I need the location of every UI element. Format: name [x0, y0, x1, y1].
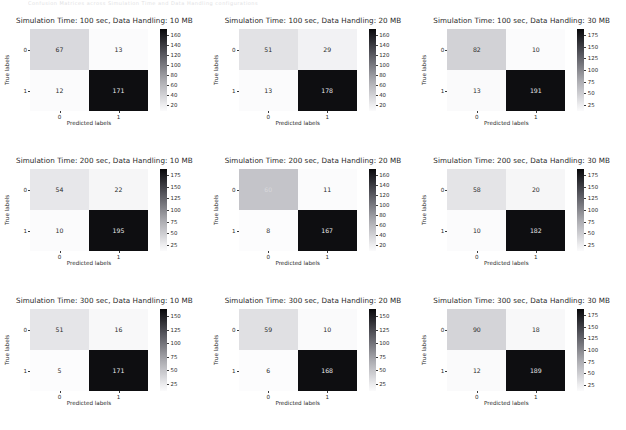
colorbar-tick: 140	[376, 42, 390, 48]
y-tick-label: 1	[441, 368, 445, 374]
matrix-cell: 59	[239, 309, 298, 350]
matrix-cell: 51	[30, 309, 89, 350]
matrix-cell-value: 6	[266, 367, 270, 374]
subplot-panel: Simulation Time: 300 sec, Data Handling:…	[0, 290, 209, 430]
colorbar-tick: 100	[167, 62, 181, 68]
colorbar-tick: 125	[584, 55, 598, 61]
subplot-panel: Simulation Time: 200 sec, Data Handling:…	[209, 150, 418, 290]
matrix-cell-value: 171	[113, 87, 125, 94]
colorbar-tick: 160	[167, 32, 181, 38]
colorbar: 16014012010080604020	[369, 29, 376, 111]
x-axis-label: Predicted labels	[30, 260, 148, 266]
colorbar-tick: 50	[584, 370, 594, 376]
matrix-cell-value: 182	[530, 227, 542, 234]
colorbar: 150125100755025	[369, 309, 376, 391]
colorbar-tick: 40	[167, 92, 177, 98]
subplot-panel: Simulation Time: 300 sec, Data Handling:…	[209, 290, 418, 430]
x-tick-mark	[119, 251, 120, 253]
y-axis-label-text: True labels	[421, 55, 427, 85]
matrix-cell-value: 29	[323, 46, 331, 53]
colorbar-tick: 100	[376, 202, 390, 208]
y-tick-mark	[445, 50, 447, 51]
heatmap-axes: 6713121710101	[30, 29, 148, 111]
y-tick-mark	[28, 231, 30, 232]
matrix-cell: 195	[89, 210, 148, 251]
matrix-cell: 5	[30, 350, 89, 391]
heatmap-axes: 5820101820101	[447, 169, 565, 251]
colorbar: 175150125100755025	[577, 169, 584, 251]
colorbar-tick: 40	[376, 232, 386, 238]
subplot-panel: Simulation Time: 100 sec, Data Handling:…	[0, 10, 209, 150]
matrix-cell-value: 5	[58, 367, 62, 374]
subplot-panel: Simulation Time: 300 sec, Data Handling:…	[417, 290, 626, 430]
heatmap-axes: 8210131910101	[447, 29, 565, 111]
colorbar-tick: 50	[584, 230, 594, 236]
y-tick-mark	[28, 190, 30, 191]
matrix-cell: 12	[447, 350, 506, 391]
colorbar-tick: 60	[376, 222, 386, 228]
colorbar-tick: 20	[376, 242, 386, 248]
y-tick-label: 0	[23, 47, 27, 53]
matrix-cell: 51	[239, 29, 298, 70]
matrix-cell-value: 167	[321, 227, 333, 234]
y-axis-label: True labels	[2, 169, 12, 251]
colorbar-tick: 160	[376, 32, 390, 38]
x-tick-mark	[477, 111, 478, 113]
colorbar-tick: 75	[167, 219, 177, 225]
y-tick-mark	[237, 91, 239, 92]
matrix-cell: 171	[89, 350, 148, 391]
matrix-cell: 13	[89, 29, 148, 70]
subplot-title: Simulation Time: 200 sec, Data Handling:…	[209, 156, 418, 165]
colorbar-tick-labels: 175150125100755025	[584, 309, 614, 391]
subplot-title: Simulation Time: 200 sec, Data Handling:…	[0, 156, 209, 165]
x-tick-mark	[477, 251, 478, 253]
y-axis-label: True labels	[419, 309, 429, 391]
colorbar-gradient	[369, 29, 376, 111]
matrix-cell: 29	[298, 29, 357, 70]
x-tick-mark	[60, 251, 61, 253]
colorbar-tick: 100	[584, 347, 598, 353]
subplot-grid: Simulation Time: 100 sec, Data Handling:…	[0, 10, 626, 430]
colorbar-gradient	[160, 309, 167, 391]
matrix-cell-value: 195	[113, 227, 125, 234]
colorbar-tick: 175	[584, 32, 598, 38]
matrix-cell-value: 191	[530, 87, 542, 94]
matrix-cell: 16	[89, 309, 148, 350]
colorbar-tick: 175	[167, 172, 181, 178]
y-tick-mark	[237, 190, 239, 191]
colorbar-tick: 120	[167, 52, 181, 58]
heatmap-axes: 5129131780101	[239, 29, 357, 111]
matrix-cell: 12	[30, 70, 89, 111]
matrix-cell: 60	[239, 169, 298, 210]
x-tick-mark	[327, 251, 328, 253]
colorbar-tick: 175	[584, 172, 598, 178]
colorbar-tick: 100	[584, 67, 598, 73]
matrix-cell-value: 10	[473, 227, 481, 234]
figure-suptitle-partial: Confusion Matrices across Simulation Tim…	[0, 0, 626, 10]
x-tick-mark	[536, 111, 537, 113]
colorbar-gradient	[160, 29, 167, 111]
subplot-title: Simulation Time: 200 sec, Data Handling:…	[417, 156, 626, 165]
heatmap-axes: 601181670101	[239, 169, 357, 251]
matrix-cell: 82	[447, 29, 506, 70]
x-tick-mark	[119, 111, 120, 113]
y-tick-mark	[237, 330, 239, 331]
colorbar-tick: 100	[376, 340, 390, 346]
colorbar-tick: 20	[167, 102, 177, 108]
y-tick-mark	[28, 330, 30, 331]
y-tick-label: 0	[232, 47, 236, 53]
colorbar-tick: 150	[167, 313, 181, 319]
matrix-cell-value: 54	[56, 186, 64, 193]
colorbar-tick: 125	[584, 195, 598, 201]
x-tick-mark	[60, 391, 61, 393]
y-tick-label: 1	[23, 368, 27, 374]
x-axis-label: Predicted labels	[447, 260, 565, 266]
colorbar-gradient	[369, 169, 376, 251]
x-axis-label: Predicted labels	[239, 260, 357, 266]
colorbar-tick-labels: 150125100755025	[376, 309, 406, 391]
colorbar-tick: 25	[584, 382, 594, 388]
matrix-cell-value: 178	[321, 87, 333, 94]
y-axis-label-text: True labels	[4, 55, 10, 85]
matrix-cell-value: 51	[56, 326, 64, 333]
y-axis-label: True labels	[2, 309, 12, 391]
